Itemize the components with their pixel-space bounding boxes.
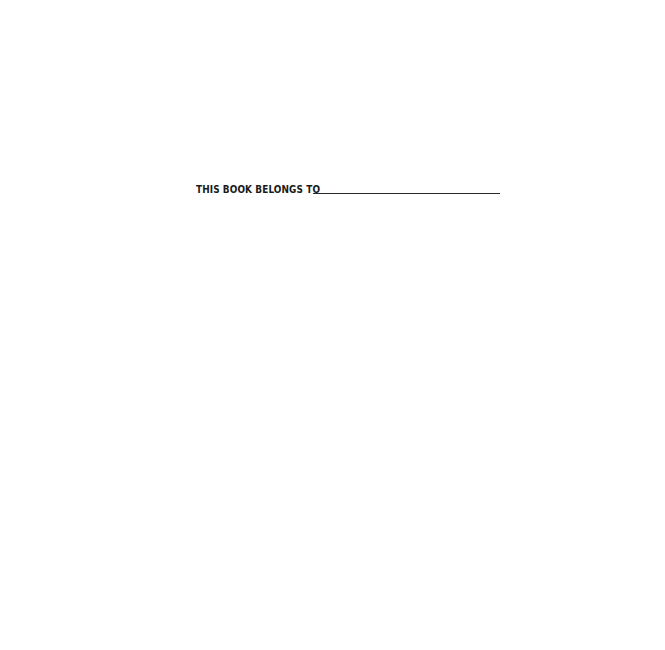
owner-name-blank-line <box>313 193 500 194</box>
bookplate-page: THIS BOOK BELONGS TO <box>0 0 665 650</box>
ownership-label: THIS BOOK BELONGS TO <box>196 184 320 195</box>
ownership-statement: THIS BOOK BELONGS TO <box>196 184 329 195</box>
